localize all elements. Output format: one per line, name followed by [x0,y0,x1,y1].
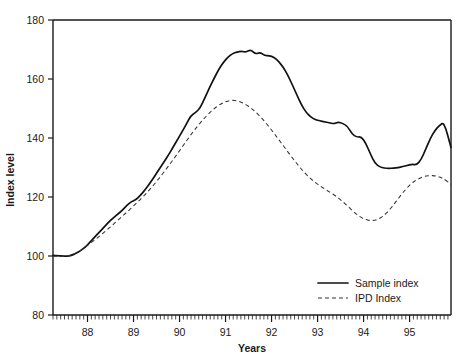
chart-canvas: 80100120140160180 8889909192939495 Sampl… [0,0,464,362]
x-tick-label: 91 [220,326,232,338]
x-axis-tick-labels: 8889909192939495 [82,326,416,338]
x-axis-title: Years [238,342,266,354]
x-tick-label: 88 [82,326,94,338]
x-tick-label: 95 [404,326,416,338]
y-tick-label: 140 [26,132,44,144]
series-line-solid [53,50,451,256]
chart-legend: Sample indexIPD Index [318,277,419,304]
x-tick-label: 89 [128,326,140,338]
x-axis-ticks [53,315,448,322]
x-tick-label: 90 [174,326,186,338]
y-axis-title: Index level [4,153,16,207]
y-axis-tick-labels: 80100120140160180 [26,14,44,321]
series-line-dashed [53,100,451,256]
y-tick-label: 100 [26,250,44,262]
x-tick-label: 92 [266,326,278,338]
chart-figure: 80100120140160180 8889909192939495 Sampl… [0,0,464,362]
legend-label: Sample index [355,277,419,289]
legend-label: IPD Index [355,292,402,304]
y-tick-label: 160 [26,73,44,85]
y-axis-ticks [48,20,53,315]
x-tick-label: 93 [312,326,324,338]
y-tick-label: 180 [26,14,44,26]
x-tick-label: 94 [358,326,370,338]
y-tick-label: 80 [32,309,44,321]
y-tick-label: 120 [26,191,44,203]
data-series-group [53,50,451,256]
